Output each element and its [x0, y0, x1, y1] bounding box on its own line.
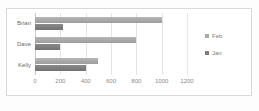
bar-feb-dave — [35, 37, 136, 43]
bar-feb-brian — [35, 17, 162, 23]
bar-jan-brian — [35, 24, 63, 30]
plot-area: BrianDaveKelly — [35, 13, 187, 75]
category-axis-label: Kelly — [18, 62, 31, 68]
category-group: Kelly — [35, 54, 187, 75]
x-axis-tick-label: 600 — [106, 78, 116, 84]
category-group: Dave — [35, 34, 187, 55]
x-axis-tick-label: 1200 — [180, 78, 193, 84]
chart-legend: FebJan — [205, 33, 249, 67]
x-axis-tick-label: 200 — [55, 78, 65, 84]
x-axis-tick-label: 400 — [81, 78, 91, 84]
category-axis-label: Brian — [17, 20, 31, 26]
legend-item-jan: Jan — [205, 50, 249, 56]
bar-feb-kelly — [35, 58, 98, 64]
x-axis-tick-label: 1000 — [155, 78, 168, 84]
category-group: Brian — [35, 13, 187, 34]
category-axis-label: Dave — [17, 41, 31, 47]
legend-swatch-icon — [205, 34, 209, 38]
bar-jan-dave — [35, 44, 60, 50]
legend-swatch-icon — [205, 51, 209, 55]
legend-label: Feb — [212, 33, 222, 39]
x-axis-tick-label: 0 — [33, 78, 36, 84]
x-axis-tick-label: 800 — [131, 78, 141, 84]
bar-jan-kelly — [35, 65, 86, 71]
legend-label: Jan — [212, 50, 222, 56]
gridline — [187, 13, 188, 75]
bar-chart: BrianDaveKelly FebJan 020040060080010001… — [0, 0, 259, 111]
legend-item-feb: Feb — [205, 33, 249, 39]
